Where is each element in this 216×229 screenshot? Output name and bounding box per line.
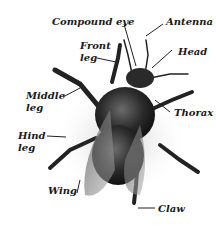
label-claw: Claw [158,203,185,214]
label-front-leg-line1: Front [80,40,111,51]
label-front-leg-line2: leg [80,52,97,63]
label-middle-leg-line2: leg [26,102,43,113]
label-hind-leg-line2: leg [18,142,35,153]
label-middle-leg-line1: Middle [26,90,65,101]
label-thorax: Thorax [174,107,213,118]
label-compound-eye: Compound eye [52,16,134,27]
label-wing: Wing [48,185,77,196]
label-antenna: Antenna [166,16,213,27]
label-hind-leg-line1: Hind [18,130,46,141]
label-head: Head [178,46,207,57]
